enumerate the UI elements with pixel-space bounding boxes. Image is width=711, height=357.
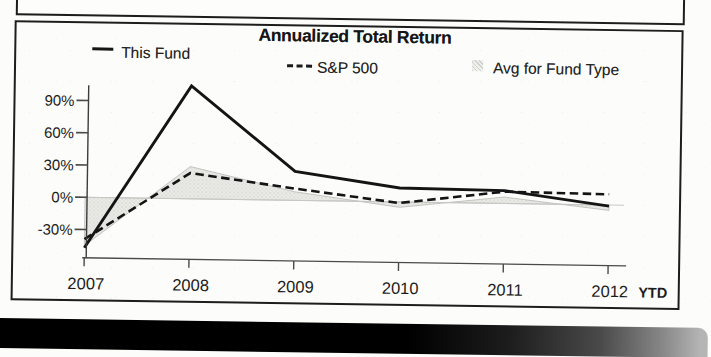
y-tick-label: -30% [37,220,72,238]
this-fund-solid-line [84,84,610,255]
y-tick-label: 60% [44,124,74,141]
x-tick-label: 2012 [591,282,628,301]
scanned-page-content: Annualized Total Return This Fund S&P 50… [0,0,711,341]
x-tick-label: 2007 [67,274,104,293]
y-tick-label: 30% [43,156,73,173]
x-tick-label: 2009 [277,277,314,296]
annualized-total-return-chart: 90%60%30%0%-30%200720082009201020112012Y… [0,0,711,341]
y-tick-label: 0% [51,188,73,205]
sp500-dashed-line [84,171,609,246]
zero-percent-line [85,197,624,205]
x-tick-label: 2008 [172,276,209,295]
x-axis-line [82,258,626,266]
ytd-label: YTD [638,285,667,301]
x-tick-label: 2010 [382,279,419,298]
x-tick-label: 2011 [487,280,523,299]
y-tick-label: 90% [44,91,74,108]
